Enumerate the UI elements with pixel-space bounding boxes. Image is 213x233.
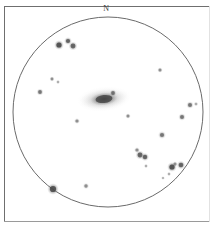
star-marker <box>143 155 147 159</box>
star-marker <box>56 42 61 47</box>
star-marker <box>38 90 42 94</box>
star-marker <box>188 103 192 107</box>
star-marker <box>51 78 54 81</box>
star-field-canvas <box>5 8 209 220</box>
star-markers <box>36 37 198 195</box>
star-marker <box>50 186 56 192</box>
star-marker <box>162 177 164 179</box>
star-marker <box>145 165 147 167</box>
star-marker <box>57 81 59 83</box>
field-of-view-circle <box>13 17 203 207</box>
sketch-plate: N <box>0 0 213 233</box>
star-marker <box>160 133 164 137</box>
star-marker <box>179 163 184 168</box>
star-marker <box>71 44 76 49</box>
frame-border-right <box>209 6 210 222</box>
star-marker <box>169 164 174 169</box>
star-marker <box>75 119 78 122</box>
star-marker <box>127 115 130 118</box>
star-marker <box>195 103 198 106</box>
star-marker <box>66 39 70 43</box>
star-marker <box>168 173 170 175</box>
frame-border-bottom <box>4 221 210 222</box>
star-marker <box>111 91 115 95</box>
eyepiece-field-view <box>5 8 209 220</box>
star-marker <box>84 184 87 187</box>
galaxy-object <box>76 84 132 114</box>
star-marker <box>159 69 162 72</box>
star-marker <box>180 115 184 119</box>
